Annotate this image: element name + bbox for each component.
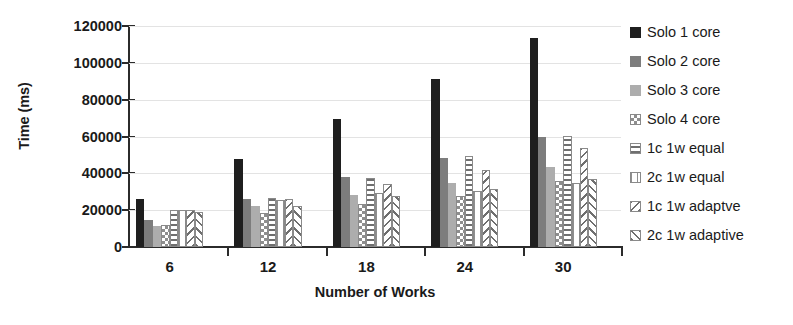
legend-label: 1c 1w equal — [647, 141, 724, 156]
x-axis-tick-mark — [326, 246, 328, 256]
x-axis-tick-mark — [424, 246, 426, 256]
bar — [572, 183, 580, 247]
legend-swatch-icon — [630, 56, 641, 67]
bar — [456, 196, 464, 247]
legend-label: 2c 1w equal — [647, 170, 724, 185]
bar — [350, 195, 358, 247]
bar — [293, 206, 301, 247]
bar — [448, 183, 456, 247]
legend-label: 2c 1w adaptive — [647, 228, 744, 243]
bar — [260, 213, 268, 247]
legend-item[interactable]: Solo 1 core — [630, 18, 793, 47]
legend-swatch-icon — [630, 27, 641, 38]
bar — [358, 204, 366, 247]
bar — [482, 170, 490, 247]
legend-swatch-icon — [630, 172, 641, 183]
legend-item[interactable]: Solo 3 core — [630, 76, 793, 105]
bar — [144, 220, 152, 247]
bar — [588, 179, 596, 247]
legend-item[interactable]: 2c 1w equal — [630, 163, 793, 192]
bar — [243, 199, 251, 247]
bar — [161, 225, 169, 247]
y-axis-tick-label: 40000 — [18, 166, 122, 181]
legend-item[interactable]: 1c 1w adaptve — [630, 192, 793, 221]
bar — [153, 226, 161, 247]
legend-item[interactable]: 2c 1w adaptive — [630, 221, 793, 250]
legend-swatch-icon — [630, 230, 641, 241]
plot-area — [129, 26, 621, 247]
y-axis-tick-label: 20000 — [18, 203, 122, 218]
bar — [490, 189, 498, 247]
chart-legend: Solo 1 coreSolo 2 coreSolo 3 coreSolo 4 … — [630, 18, 793, 250]
x-axis-tick-labels: 612182430 — [129, 258, 621, 280]
bar-chart: Time (ms) 020000400006000080000100000120… — [0, 0, 793, 325]
bar — [251, 206, 259, 247]
legend-label: 1c 1w adaptve — [647, 199, 741, 214]
bar — [234, 159, 242, 247]
x-axis-tick-mark — [227, 246, 229, 256]
bar — [530, 38, 538, 247]
bar — [341, 177, 349, 247]
x-axis-title: Number of Works — [129, 284, 621, 300]
legend-swatch-icon — [630, 201, 641, 212]
bar — [333, 119, 341, 247]
y-axis-tick-labels: 020000400006000080000100000120000 — [18, 0, 122, 325]
y-axis-tick-label: 0 — [18, 240, 122, 255]
bar — [383, 184, 391, 247]
bar — [431, 79, 439, 248]
x-axis-tick-label: 12 — [233, 258, 303, 275]
legend-label: Solo 4 core — [647, 112, 720, 127]
bar — [392, 196, 400, 247]
y-axis-tick-label: 100000 — [18, 56, 122, 71]
legend-label: Solo 2 core — [647, 54, 720, 69]
y-axis-tick-label: 120000 — [18, 19, 122, 34]
x-axis-tick-label: 18 — [331, 258, 401, 275]
bar — [555, 181, 563, 247]
bar — [473, 191, 481, 247]
bar — [178, 210, 186, 247]
legend-item[interactable]: Solo 2 core — [630, 47, 793, 76]
legend-item[interactable]: Solo 4 core — [630, 105, 793, 134]
bar — [285, 199, 293, 247]
legend-swatch-icon — [630, 85, 641, 96]
bar — [170, 210, 178, 247]
x-axis-tick-label: 30 — [528, 258, 598, 275]
bar — [195, 212, 203, 247]
bar — [268, 198, 276, 247]
bar — [546, 167, 554, 247]
y-axis-tick-label: 80000 — [18, 92, 122, 107]
bar — [136, 199, 144, 247]
bar — [186, 210, 194, 247]
x-axis-tick-label: 6 — [135, 258, 205, 275]
legend-label: Solo 3 core — [647, 83, 720, 98]
legend-swatch-icon — [630, 143, 641, 154]
bar — [465, 156, 473, 247]
legend-label: Solo 1 core — [647, 25, 720, 40]
bar — [440, 158, 448, 247]
bar — [366, 178, 374, 247]
x-axis-tick-mark — [523, 246, 525, 256]
bar — [375, 193, 383, 247]
bar — [580, 148, 588, 247]
x-axis-tick-mark — [621, 246, 623, 256]
bars-layer — [129, 26, 621, 247]
legend-item[interactable]: 1c 1w equal — [630, 134, 793, 163]
bar — [276, 200, 284, 247]
x-axis-tick-label: 24 — [430, 258, 500, 275]
bar — [538, 137, 546, 248]
bar — [563, 136, 571, 247]
y-axis-tick-label: 60000 — [18, 129, 122, 144]
legend-swatch-icon — [630, 114, 641, 125]
